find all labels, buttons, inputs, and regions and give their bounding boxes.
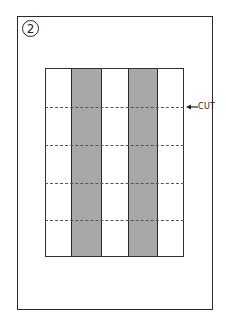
cut-line-3 [45,183,184,184]
cut-line-2 [45,145,184,146]
fabric-stripe-grid [45,68,184,257]
stripe-white-3 [158,69,185,256]
cut-line-4 [45,220,184,221]
step-number-badge: 2 [22,20,39,37]
stripe-white-1 [46,69,72,256]
arrow-left-icon [186,103,198,111]
stripe-shaded-1 [71,69,102,256]
cut-line-1 [45,107,184,108]
step-number: 2 [27,23,35,35]
cut-label: CUT [198,102,215,111]
stripe-white-2 [102,69,129,256]
stripe-shaded-2 [128,69,158,256]
